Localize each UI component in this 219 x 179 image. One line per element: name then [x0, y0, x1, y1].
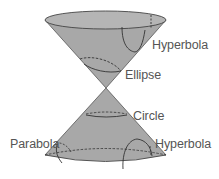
double-cone-illustration — [0, 0, 219, 179]
label-ellipse: Ellipse — [125, 69, 161, 82]
label-parabola: Parabola — [10, 138, 59, 151]
label-hyperbola-top: Hyperbola — [152, 39, 208, 52]
conic-sections-diagram: Hyperbola Ellipse Circle Parabola Hyperb… — [0, 0, 219, 179]
label-hyperbola-bottom: Hyperbola — [155, 138, 211, 151]
lower-cone — [45, 88, 166, 169]
label-circle: Circle — [133, 110, 164, 123]
top-rim-ellipse — [45, 11, 166, 29]
